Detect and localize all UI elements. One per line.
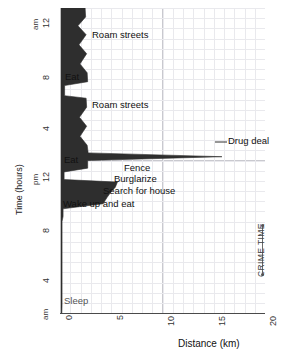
y-tick-meridiem-pm: pm <box>31 174 40 185</box>
y-tick-meridiem-am-bottom: am <box>41 309 50 320</box>
plot-area <box>60 8 265 313</box>
y-tick-12pm: 12 <box>41 172 51 182</box>
x-axis-label: Distance (km) <box>178 338 240 349</box>
annotation-eat-afternoon: Eat <box>64 155 78 165</box>
annotation-sleep: Sleep <box>64 296 88 306</box>
x-tick-0: 0 <box>64 315 74 320</box>
y-axis-label: Time (hours) <box>14 164 24 215</box>
crime-time-label: CRIME TIME <box>256 223 266 277</box>
x-tick-15: 15 <box>217 316 227 326</box>
annotation-search-for-house: Search for house <box>103 186 175 196</box>
annotation-burglarize: Burglarize <box>114 174 157 184</box>
plot-bottom-axis-line <box>60 313 265 314</box>
x-tick-20: 20 <box>268 316 278 326</box>
y-tick-8pm: 8 <box>41 75 51 80</box>
x-tick-5: 5 <box>115 315 125 320</box>
activity-distance-area <box>60 8 265 313</box>
annotation-wake-up-and-eat: Wake up and eat <box>63 199 134 209</box>
x-tick-10: 10 <box>166 316 176 326</box>
annotation-drug-deal: Drug deal <box>228 136 269 146</box>
annotation-fence: Fence <box>124 163 150 173</box>
y-tick-4am: 4 <box>41 278 51 283</box>
plot-left-axis-line <box>60 8 61 313</box>
y-tick-8am: 8 <box>41 228 51 233</box>
y-tick-meridiem-am-top: am <box>31 19 40 30</box>
crime-time-activity-chart: Roam streets Eat Roam streets Drug deal … <box>0 0 289 354</box>
drug-deal-leader-line <box>215 138 231 146</box>
y-tick-4pm: 4 <box>41 126 51 131</box>
annotation-roam-streets-evening: Roam streets <box>92 100 149 110</box>
annotation-eat-evening: Eat <box>65 72 79 82</box>
annotation-roam-streets-night: Roam streets <box>92 30 149 40</box>
y-tick-12am: 12 <box>41 18 51 28</box>
